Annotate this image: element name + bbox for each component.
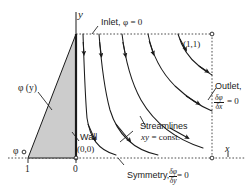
x-axis-ticks	[28, 158, 76, 163]
symmetry-derivative-denominator: δy	[169, 177, 177, 185]
symmetry-derivative: δφ δy	[169, 168, 177, 184]
wall-label: Wall	[80, 133, 97, 142]
inlet-label: Inlet, φ = 0	[101, 18, 142, 27]
streamlines-leader-left	[120, 131, 133, 142]
corner-10-marker	[210, 156, 214, 160]
x-tick-label-1: 1	[25, 165, 30, 175]
symmetry-leader	[118, 158, 124, 165]
inlet-label-text: Inlet,	[101, 17, 121, 27]
origin-label: (0,0)	[77, 145, 94, 154]
inlet-phi-text: φ = 0	[123, 17, 142, 27]
symmetry-label-text: Symmetry,	[127, 170, 169, 180]
x-tick-label-0: 0	[73, 165, 78, 175]
inlet-leader	[92, 26, 98, 34]
figure-container: y x Inlet, φ = 0 (1,1) Outlet, δφ δx = 0…	[0, 0, 252, 196]
streamlines-equation: xy = const.	[141, 133, 180, 142]
x-axis-label: x	[225, 144, 229, 154]
corner-11-label: (1,1)	[183, 40, 200, 49]
outlet-derivative: δφ δx	[214, 94, 224, 110]
streamlines-const: = const.	[152, 132, 181, 142]
symmetry-equals-zero: = 0	[177, 170, 189, 180]
phi-axis-marker	[22, 150, 26, 154]
streamlines-xy: xy	[141, 132, 149, 142]
phi-axis-label: φ	[13, 147, 18, 157]
phi-profile-triangle	[28, 34, 76, 158]
outlet-label: Outlet,	[215, 82, 242, 91]
y-axis-label: y	[78, 9, 83, 20]
streamline-4	[148, 34, 212, 111]
symmetry-label: Symmetry, δφ δy = 0	[127, 168, 189, 184]
outlet-equals-zero: = 0	[227, 97, 239, 106]
phi-profile-label: φ (y)	[18, 84, 37, 94]
streamlines-label: Streamlines	[140, 122, 188, 131]
corner-11-marker	[210, 32, 214, 36]
outlet-derivative-denominator: δx	[214, 103, 224, 111]
